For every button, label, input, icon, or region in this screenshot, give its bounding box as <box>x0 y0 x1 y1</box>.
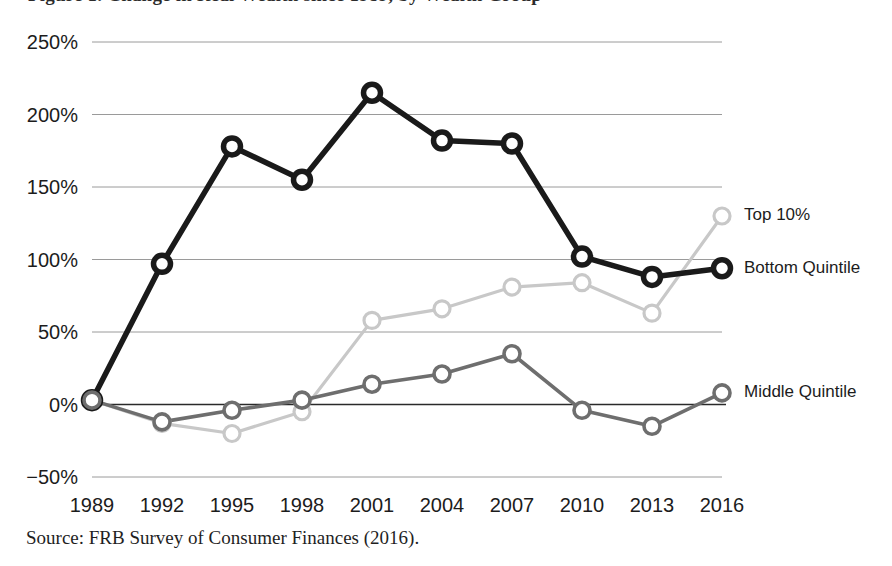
source-note: Source: FRB Survey of Consumer Finances … <box>26 527 419 549</box>
data-point-marker <box>294 392 310 408</box>
x-axis-tick-label: 2010 <box>560 494 605 516</box>
series-label-top-10: Top 10% <box>744 205 810 224</box>
data-point-marker <box>574 275 590 291</box>
data-point-marker <box>434 301 450 317</box>
data-point-marker <box>364 84 381 101</box>
data-point-marker <box>154 255 171 272</box>
y-axis-labels-group: −50%0%50%100%150%200%250% <box>26 31 78 488</box>
data-point-marker <box>504 279 520 295</box>
x-axis-tick-label: 1995 <box>210 494 255 516</box>
data-point-marker <box>644 418 660 434</box>
series-labels-group: Top 10%Bottom QuintileMiddle Quintile <box>744 205 860 401</box>
data-point-marker <box>364 312 380 328</box>
series-line-bottom-quintile <box>92 93 722 400</box>
y-axis-tick-label: 200% <box>27 104 78 126</box>
data-point-marker <box>574 248 591 265</box>
data-point-marker <box>714 208 730 224</box>
x-axis-tick-label: 2013 <box>630 494 675 516</box>
data-series-group <box>84 84 731 441</box>
x-axis-tick-label: 1989 <box>70 494 115 516</box>
x-axis-tick-label: 2007 <box>490 494 535 516</box>
data-point-marker <box>224 426 240 442</box>
x-axis-tick-label: 1998 <box>280 494 325 516</box>
x-axis-tick-label: 2016 <box>700 494 745 516</box>
y-axis-tick-label: 100% <box>27 249 78 271</box>
data-point-marker <box>644 305 660 321</box>
x-axis-tick-label: 1992 <box>140 494 185 516</box>
data-point-marker <box>294 171 311 188</box>
x-axis-tick-label: 2001 <box>350 494 395 516</box>
data-point-marker <box>434 366 450 382</box>
series-line-middle-quintile <box>92 354 722 427</box>
figure-container: Figure 1. Change in Real Wealth since 19… <box>0 0 892 566</box>
y-axis-tick-label: −50% <box>26 466 78 488</box>
data-point-marker <box>714 260 731 277</box>
x-axis-tick-label: 2004 <box>420 494 465 516</box>
data-point-marker <box>84 392 100 408</box>
data-point-marker <box>154 414 170 430</box>
data-point-marker <box>504 135 521 152</box>
data-point-marker <box>504 346 520 362</box>
data-point-marker <box>644 268 661 285</box>
data-point-marker <box>224 402 240 418</box>
data-point-marker <box>574 402 590 418</box>
data-point-marker <box>434 132 451 149</box>
gridlines-group <box>92 42 726 477</box>
line-chart-plot: −50%0%50%100%150%200%250% 19891992199519… <box>0 0 892 566</box>
y-axis-tick-label: 150% <box>27 176 78 198</box>
y-axis-tick-label: 50% <box>38 321 78 343</box>
series-label-middle-quintile: Middle Quintile <box>744 382 856 401</box>
x-axis-labels-group: 1989199219951998200120042007201020132016 <box>70 494 745 516</box>
data-point-marker <box>714 385 730 401</box>
y-axis-tick-label: 0% <box>49 394 78 416</box>
y-axis-tick-label: 250% <box>27 31 78 53</box>
data-point-marker <box>364 376 380 392</box>
series-label-bottom-quintile: Bottom Quintile <box>744 258 860 277</box>
data-point-marker <box>224 138 241 155</box>
series-line-top-10 <box>92 216 722 434</box>
